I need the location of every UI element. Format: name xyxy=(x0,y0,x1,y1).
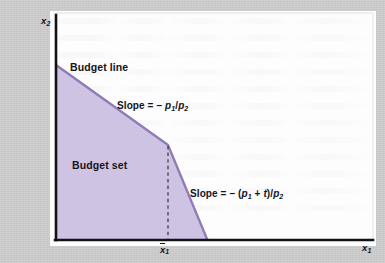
x-axis-tick-label-x1-bar: x1 xyxy=(160,243,169,255)
budget-set-region xyxy=(56,65,207,239)
budget-set-figure: x2 x1 Budget line Budget set Slope = – p… xyxy=(0,0,385,263)
budget-line-label: Budget line xyxy=(70,62,128,73)
slope-label-untaxed: Slope = – p1/p2 xyxy=(117,101,188,113)
slope-taxed-plus: + xyxy=(252,188,264,199)
y-axis-label-subscript: 2 xyxy=(46,20,50,27)
slope-untaxed-p2-subscript: 2 xyxy=(184,105,188,113)
x-axis-label: x1 xyxy=(362,243,371,254)
x1-bar-subscript: 1 xyxy=(165,248,169,255)
y-axis-label: x2 xyxy=(41,16,50,27)
slope-untaxed-prefix: Slope = – xyxy=(117,100,165,111)
slope-taxed-prefix: Slope = – ( xyxy=(190,188,241,199)
x-axis-label-subscript: 1 xyxy=(367,247,371,254)
plot-canvas xyxy=(0,0,385,263)
slope-label-taxed: Slope = – (p1 + t)/p2 xyxy=(190,189,283,201)
slope-taxed-p2-subscript: 2 xyxy=(279,193,283,201)
budget-set-label: Budget set xyxy=(72,160,127,171)
